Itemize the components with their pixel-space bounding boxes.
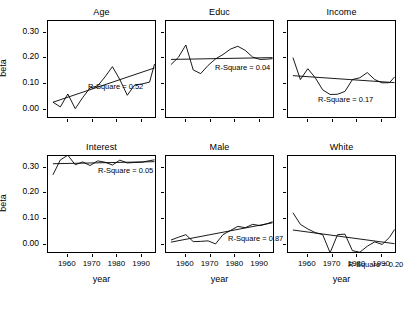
x-tick-mark	[307, 119, 308, 122]
r-square-label: R-Square = 0.05	[98, 167, 153, 175]
series-group	[288, 156, 396, 253]
series-group	[48, 21, 156, 118]
y-tick-mark	[283, 192, 286, 193]
x-tick-mark	[259, 119, 260, 122]
y-tick-mark	[43, 32, 46, 33]
x-tick-mark	[92, 254, 93, 257]
x-tick-mark	[116, 254, 117, 257]
y-tick-mark	[43, 192, 46, 193]
panel-title: Male	[165, 142, 274, 152]
y-axis-title: beta	[0, 38, 8, 98]
x-tick-mark	[234, 254, 235, 257]
x-tick-mark	[141, 254, 142, 257]
y-tick-mark	[43, 167, 46, 168]
y-tick-mark	[283, 57, 286, 58]
y-tick-mark	[161, 83, 164, 84]
y-tick-mark	[283, 167, 286, 168]
y-axis-title: beta	[0, 173, 8, 233]
y-tick-mark	[161, 57, 164, 58]
y-tick-mark	[283, 244, 286, 245]
y-tick-label: 0.20	[5, 52, 39, 61]
x-tick-mark	[332, 119, 333, 122]
panel-income	[240, 0, 396, 1]
x-tick-mark	[67, 119, 68, 122]
y-tick-mark	[43, 83, 46, 84]
y-tick-label: 0.10	[5, 78, 39, 87]
panel-title: Income	[287, 7, 396, 17]
y-tick-mark	[161, 192, 164, 193]
series-regression	[293, 76, 395, 83]
r-square-label: R-Square = 0.52	[88, 83, 143, 91]
y-tick-label: 0.30	[5, 27, 39, 36]
y-tick-mark	[283, 109, 286, 110]
x-tick-mark	[381, 254, 382, 257]
y-tick-mark	[283, 32, 286, 33]
y-tick-label: 0.00	[5, 104, 39, 113]
x-tick-mark	[381, 119, 382, 122]
x-tick-label: 1990	[127, 259, 155, 268]
x-axis-title: year	[287, 274, 396, 284]
y-tick-mark	[43, 57, 46, 58]
r-square-label: R-Square = 0.17	[318, 96, 373, 104]
x-tick-mark	[259, 254, 260, 257]
x-tick-mark	[185, 254, 186, 257]
y-tick-label: 0.10	[5, 213, 39, 222]
y-tick-label: 0.00	[5, 239, 39, 248]
x-axis-title: year	[165, 274, 274, 284]
x-tick-mark	[210, 254, 211, 257]
x-tick-mark	[141, 119, 142, 122]
series-beta	[293, 58, 395, 95]
y-tick-label: 0.30	[5, 162, 39, 171]
figure-canvas: AgeR-Square = 0.520.000.100.200.30EducR-…	[0, 0, 418, 316]
y-tick-mark	[43, 109, 46, 110]
y-tick-mark	[161, 167, 164, 168]
r-square-label: R-Square = 0.04	[215, 64, 270, 72]
x-tick-mark	[116, 119, 117, 122]
x-tick-label: 1990	[367, 259, 395, 268]
series-regression	[293, 230, 395, 244]
panel-title: Age	[47, 7, 156, 17]
y-tick-label: 0.20	[5, 187, 39, 196]
r-square-label: R-Square = 0.87	[228, 235, 283, 243]
x-tick-mark	[185, 119, 186, 122]
y-tick-mark	[161, 109, 164, 110]
y-tick-mark	[43, 244, 46, 245]
x-tick-mark	[332, 254, 333, 257]
x-tick-mark	[234, 119, 235, 122]
x-tick-mark	[356, 119, 357, 122]
y-tick-mark	[43, 218, 46, 219]
plot-area-white	[287, 155, 396, 253]
series-beta	[293, 213, 395, 253]
panel-white	[240, 135, 396, 136]
y-tick-mark	[283, 218, 286, 219]
panel-title: Interest	[47, 142, 156, 152]
y-tick-mark	[161, 244, 164, 245]
x-tick-mark	[210, 119, 211, 122]
y-tick-mark	[283, 83, 286, 84]
x-tick-label: 1990	[245, 259, 273, 268]
x-tick-mark	[356, 254, 357, 257]
y-tick-mark	[161, 218, 164, 219]
x-tick-mark	[67, 254, 68, 257]
y-tick-mark	[161, 32, 164, 33]
x-tick-mark	[307, 254, 308, 257]
panel-title: Educ	[165, 7, 274, 17]
plot-area-age	[47, 20, 156, 118]
x-axis-title: year	[47, 274, 156, 284]
panel-title: White	[287, 142, 396, 152]
x-tick-mark	[92, 119, 93, 122]
